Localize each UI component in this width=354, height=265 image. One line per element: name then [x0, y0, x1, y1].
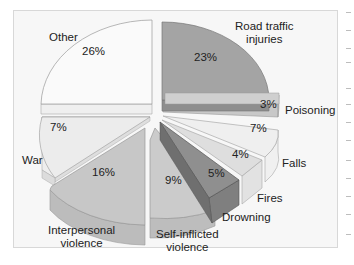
- label-self: Self-inflicted violence: [156, 228, 219, 254]
- label-fires: Fires: [257, 192, 283, 205]
- pct-war: 7%: [50, 121, 67, 133]
- label-interpersonal: Interpersonal violence: [48, 224, 115, 250]
- pct-interpersonal: 16%: [92, 166, 115, 178]
- label-road: Road traffic injuries: [235, 20, 294, 46]
- label-falls: Falls: [282, 157, 306, 170]
- pct-drowning: 5%: [208, 167, 225, 179]
- pct-falls: 7%: [250, 122, 267, 134]
- pct-road: 23%: [194, 51, 217, 63]
- pct-poisoning: 3%: [260, 98, 277, 110]
- label-war: War: [22, 154, 43, 167]
- pct-other: 26%: [82, 45, 105, 57]
- pct-self: 9%: [165, 174, 182, 186]
- label-drowning: Drowning: [222, 211, 271, 224]
- pct-fires: 4%: [232, 148, 249, 160]
- label-poisoning: Poisoning: [285, 104, 336, 117]
- label-other: Other: [49, 31, 78, 44]
